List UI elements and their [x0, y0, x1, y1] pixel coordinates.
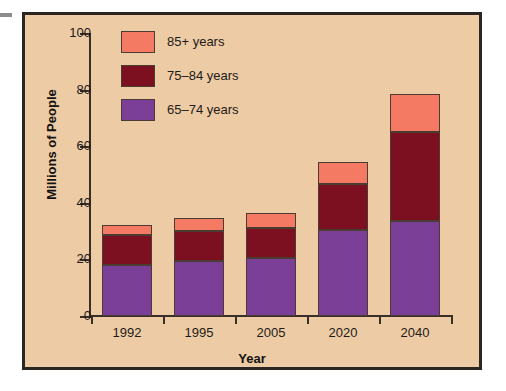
bar-segment [102, 225, 152, 235]
bar-segment [246, 213, 296, 229]
legend-label: 75–84 years [167, 68, 239, 83]
x-tick-mark [307, 315, 309, 324]
legend-swatch [121, 31, 155, 53]
bar-segment [174, 261, 224, 316]
bar-segment [174, 231, 224, 261]
legend-label: 65–74 years [167, 102, 239, 117]
y-tick-label: 20 [49, 251, 91, 266]
legend-label: 85+ years [167, 34, 224, 49]
x-tick-label: 2005 [235, 325, 307, 340]
chart-screenshot: 020406080100 19921995200520202040 Year M… [0, 0, 506, 391]
bar-segment [390, 221, 440, 316]
chart-frame: 020406080100 19921995200520202040 Year M… [22, 12, 482, 370]
x-tick-label: 1995 [163, 325, 235, 340]
bar-1992 [102, 15, 152, 316]
bar-segment [390, 132, 440, 221]
page-edge-artifact [0, 13, 12, 17]
bar-2005 [246, 15, 296, 316]
bar-segment [102, 265, 152, 316]
y-axis-line [89, 33, 91, 317]
bar-1995 [174, 15, 224, 316]
x-tick-mark [451, 315, 453, 324]
y-tick-label: 0 [49, 308, 91, 323]
bar-segment [318, 162, 368, 185]
x-tick-mark [163, 315, 165, 324]
bar-2040 [390, 15, 440, 316]
x-tick-label: 2040 [379, 325, 451, 340]
x-tick-mark [379, 315, 381, 324]
x-tick-mark [235, 315, 237, 324]
y-axis-title: Millions of People [44, 65, 59, 225]
plot-area: 020406080100 19921995200520202040 Year M… [25, 15, 479, 367]
x-axis-title: Year [25, 351, 479, 366]
x-tick-label: 1992 [91, 325, 163, 340]
legend-swatch [121, 65, 155, 87]
bar-segment [174, 218, 224, 231]
bar-segment [318, 184, 368, 229]
bar-2020 [318, 15, 368, 316]
bar-segment [102, 235, 152, 265]
bar-segment [390, 94, 440, 132]
x-tick-label: 2020 [307, 325, 379, 340]
bar-segment [246, 258, 296, 316]
legend-swatch [121, 99, 155, 121]
bar-segment [318, 230, 368, 316]
x-tick-mark [91, 315, 93, 324]
bar-segment [246, 228, 296, 258]
y-tick-label: 100 [49, 25, 91, 40]
